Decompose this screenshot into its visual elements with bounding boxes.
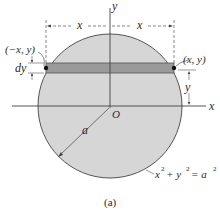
arrow-right — [169, 25, 173, 28]
dy-arrowhead-bottom — [31, 73, 33, 76]
equation-rhs: = a — [191, 168, 207, 180]
strip-y-label: y — [184, 80, 191, 94]
figure-caption: (a) — [104, 196, 117, 209]
equation-sup3: 2 — [213, 165, 217, 173]
left-dim-label: x — [76, 18, 83, 32]
left-leader — [38, 52, 44, 66]
right-point-label: (x, y) — [183, 53, 206, 66]
right-dim-label: x — [136, 18, 143, 32]
equation-x: x — [154, 168, 160, 180]
y-dim-arrow-top — [188, 71, 190, 74]
dy-label: dy — [15, 61, 27, 75]
right-point — [172, 66, 176, 70]
y-axis-label: y — [111, 0, 118, 13]
circle-strip-diagram: y x O a x x (−x, y) (x, y) dy y x 2 + y … — [0, 0, 220, 210]
equation-plus-y: + y — [166, 168, 181, 180]
arrow-left — [47, 25, 51, 28]
radius-label: a — [82, 123, 88, 137]
x-axis-label: x — [208, 99, 215, 113]
equation-leader — [146, 170, 154, 174]
y-dim-arrow-bottom — [188, 102, 190, 105]
origin-label: O — [112, 108, 120, 120]
dy-arrowhead-top — [31, 60, 33, 63]
equation-sup2: 2 — [186, 165, 190, 173]
left-point-label: (−x, y) — [5, 43, 35, 56]
equation-sup1: 2 — [161, 165, 165, 173]
left-point — [44, 66, 48, 70]
